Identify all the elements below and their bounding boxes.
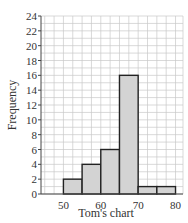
y-tick-label: 18 [26,55,38,67]
y-tick-labels: 024681012141618202224 [26,10,38,200]
histogram-bar [82,164,101,194]
y-tick-label: 4 [32,158,38,170]
y-tick-label: 20 [26,40,38,52]
histogram-bar [63,179,82,194]
y-tick-label: 0 [32,188,38,200]
y-tick-label: 22 [26,25,37,37]
y-axis-label: Frequency [5,80,19,131]
x-axis-label: Tom's chart [78,206,134,220]
histogram-bar [119,75,138,194]
y-tick-label: 12 [26,99,37,111]
x-tick-label: 50 [58,199,70,211]
y-tick-label: 10 [26,114,38,126]
y-tick-label: 2 [32,173,38,185]
histogram-bar [157,187,176,194]
y-tick-label: 14 [26,84,38,96]
histogram-chart: 024681012141618202224 50607080 Tom's cha… [0,0,188,223]
y-tick-label: 16 [26,69,38,81]
y-tick-label: 6 [32,144,38,156]
histogram-bar [138,187,157,194]
x-tick-label: 70 [133,199,145,211]
y-tick-label: 24 [26,10,38,22]
histogram-bar [101,150,120,195]
y-tick-label: 8 [32,129,38,141]
x-tick-label: 80 [170,199,182,211]
